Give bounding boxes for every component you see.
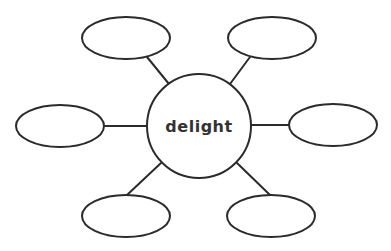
spoke-bottom-left: [127, 163, 161, 195]
spoke-top-right: [230, 57, 250, 84]
node-label-right: [289, 104, 377, 146]
node-label-top-right: [228, 17, 316, 59]
node-label-left: [16, 105, 104, 147]
node-label-bottom-left: [82, 195, 170, 237]
node-label-bottom-right: [227, 195, 315, 237]
center-word-label: delight: [147, 110, 251, 142]
spoke-top-left: [147, 57, 169, 84]
node-label-top-left: [82, 17, 170, 59]
spoke-bottom-right: [237, 163, 270, 195]
